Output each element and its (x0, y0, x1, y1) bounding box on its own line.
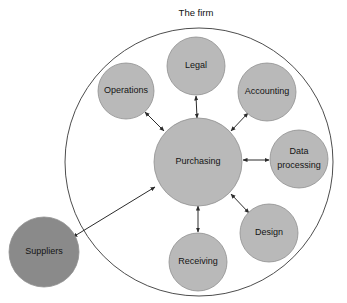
link-purchasing-design (231, 194, 249, 213)
receiving-circle[interactable] (169, 233, 227, 291)
diagram-canvas: The firm Operations Legal Accounting Da (0, 0, 347, 303)
node-operations[interactable]: Operations (98, 63, 154, 119)
accounting-circle[interactable] (238, 63, 296, 121)
node-purchasing[interactable]: Purchasing (154, 118, 242, 206)
purchasing-circle[interactable] (154, 118, 242, 206)
operations-circle[interactable] (98, 63, 154, 119)
node-data-processing[interactable]: Data processing (270, 130, 328, 188)
data-processing-circle[interactable] (270, 130, 328, 188)
design-circle[interactable] (240, 204, 298, 262)
link-purchasing-suppliers (73, 187, 155, 237)
legal-circle[interactable] (167, 37, 225, 95)
link-purchasing-legal (196, 96, 197, 118)
node-design[interactable]: Design (240, 204, 298, 262)
node-suppliers[interactable]: Suppliers (9, 217, 79, 287)
node-accounting[interactable]: Accounting (238, 63, 296, 121)
node-receiving[interactable]: Receiving (169, 233, 227, 291)
link-purchasing-accounting (231, 113, 248, 131)
suppliers-circle[interactable] (9, 217, 79, 287)
node-legal[interactable]: Legal (167, 37, 225, 95)
diagram-title: The firm (179, 7, 214, 18)
firm-network-diagram: The firm Operations Legal Accounting Da (0, 0, 347, 303)
link-purchasing-operations (145, 112, 164, 131)
